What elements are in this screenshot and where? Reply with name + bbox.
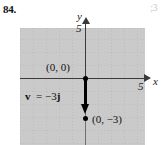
coordinate-plane: y x 5 5 (0, 0) (0, −3) v = −3j [20, 28, 145, 145]
x-axis-arrow-icon [144, 74, 151, 82]
vector-arrowhead-icon [81, 104, 89, 114]
problem-number: 84. [3, 3, 16, 15]
x-axis-tick-label-5: 5 [138, 80, 144, 92]
y-axis-arrow-icon [82, 17, 90, 24]
gridline-horizontal [20, 143, 145, 144]
gridline-horizontal [20, 52, 145, 53]
unit-vector-j-symbol: j [57, 90, 61, 102]
y-axis-label: y [77, 10, 82, 22]
gridline-vertical [98, 28, 99, 145]
gridline-vertical [124, 28, 125, 145]
vector-equation-label: v = −3j [25, 90, 60, 102]
gridline-horizontal [20, 65, 145, 66]
gridline-vertical [111, 28, 112, 145]
gridline-horizontal [20, 130, 145, 131]
terminal-point-label: (0, −3) [92, 113, 122, 125]
corner-artifact-text: ;3 [150, 2, 157, 13]
gridline-vertical [72, 28, 73, 145]
gridline-vertical [59, 28, 60, 145]
vector-scalar-value: −3 [45, 90, 57, 102]
point-marker-origin [83, 76, 88, 81]
y-axis-tick-label-5: 5 [76, 22, 82, 34]
vector-shaft [84, 78, 87, 107]
gridline-vertical [46, 28, 47, 145]
figure-container: 84. ;3 y x 5 5 [0, 0, 162, 145]
point-marker-terminal [83, 116, 88, 121]
gridline-horizontal [20, 28, 145, 29]
origin-point-label: (0, 0) [46, 61, 70, 73]
x-axis-label: x [153, 75, 158, 87]
gridline-horizontal [20, 39, 145, 40]
gridline-vertical [33, 28, 34, 145]
grid-background [20, 28, 145, 145]
gridline-vertical [20, 28, 21, 145]
